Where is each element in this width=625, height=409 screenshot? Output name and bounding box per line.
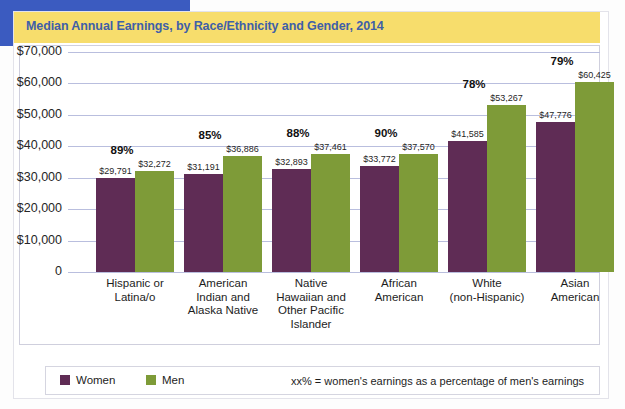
gridline bbox=[68, 272, 600, 273]
legend-note: xx% = women's earnings as a percentage o… bbox=[291, 375, 584, 387]
bar-value-label: $37,461 bbox=[303, 142, 359, 152]
bar-value-label: $60,425 bbox=[567, 70, 623, 80]
bar-men[interactable] bbox=[575, 82, 614, 272]
bar-men[interactable] bbox=[135, 171, 174, 272]
y-axis-tick-label: $20,000 bbox=[0, 201, 62, 215]
bar-women[interactable] bbox=[360, 166, 399, 272]
bar-women[interactable] bbox=[536, 122, 575, 272]
bar-value-label: $32,272 bbox=[127, 159, 183, 169]
bar-value-label: $53,267 bbox=[479, 93, 535, 103]
legend-label-men: Men bbox=[162, 374, 184, 386]
category-label-line: American bbox=[523, 291, 625, 305]
y-axis-tick-label: 0 bbox=[0, 264, 62, 278]
ratio-percent-label: 85% bbox=[171, 129, 249, 141]
legend-item-men: Men bbox=[146, 374, 184, 386]
ratio-percent-label: 79% bbox=[523, 55, 601, 67]
ratio-percent-label: 78% bbox=[435, 78, 513, 90]
bar-women[interactable] bbox=[96, 178, 135, 272]
bar-women[interactable] bbox=[184, 174, 223, 272]
y-axis-tick-label: $50,000 bbox=[0, 107, 62, 121]
ratio-percent-label: 90% bbox=[347, 127, 425, 139]
bar-value-label: $36,886 bbox=[215, 144, 271, 154]
bar-men[interactable] bbox=[311, 154, 350, 272]
bar-women[interactable] bbox=[272, 169, 311, 272]
ratio-percent-label: 88% bbox=[259, 127, 337, 139]
category-label: AsianAmerican bbox=[523, 277, 625, 304]
bar-women[interactable] bbox=[448, 141, 487, 272]
y-axis-tick-label: $70,000 bbox=[0, 44, 62, 58]
legend-swatch-women bbox=[60, 375, 70, 385]
page-title: Median Annual Earnings, by Race/Ethnicit… bbox=[26, 19, 384, 33]
bar-value-label: $37,570 bbox=[391, 142, 447, 152]
legend-swatch-men bbox=[146, 375, 156, 385]
category-label-line: Other Pacific bbox=[259, 304, 363, 318]
ratio-percent-label: 89% bbox=[83, 144, 161, 156]
legend: Women Men xx% = women's earnings as a pe… bbox=[45, 366, 600, 395]
legend-item-women: Women bbox=[60, 374, 115, 386]
gridline bbox=[68, 52, 600, 53]
y-axis-tick-label: $10,000 bbox=[0, 233, 62, 247]
page-background: Median Annual Earnings, by Race/Ethnicit… bbox=[0, 0, 625, 409]
legend-label-women: Women bbox=[76, 374, 115, 386]
y-axis-tick-label: $30,000 bbox=[0, 170, 62, 184]
bar-men[interactable] bbox=[399, 154, 438, 272]
bar-men[interactable] bbox=[487, 105, 526, 272]
category-label-line: Asian bbox=[523, 277, 625, 291]
y-axis-tick-label: $60,000 bbox=[0, 75, 62, 89]
y-axis-tick-label: $40,000 bbox=[0, 138, 62, 152]
category-label-line: Islander bbox=[259, 318, 363, 332]
bar-men[interactable] bbox=[223, 156, 262, 272]
gridline bbox=[68, 83, 600, 84]
